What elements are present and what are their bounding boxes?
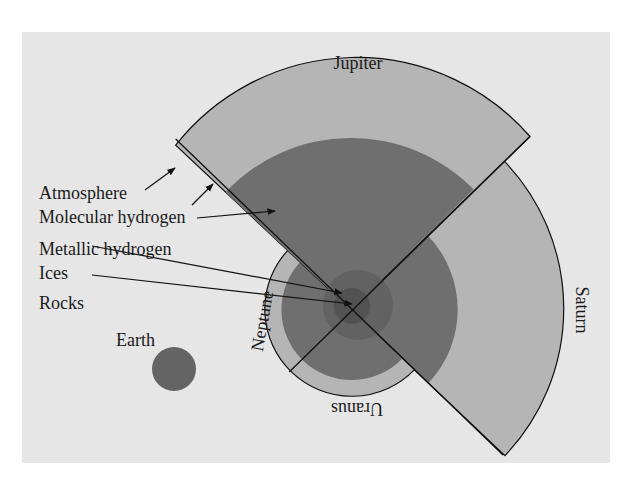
jupiter-label: Jupiter [334, 53, 383, 73]
metallic-hydrogen-label: Metallic hydrogen [39, 239, 171, 259]
uranus-label: Uranus [331, 399, 383, 419]
earth-disc [152, 347, 196, 391]
saturn-label: Saturn [572, 287, 592, 334]
rocks-core [334, 288, 370, 324]
planet-interiors-diagram: Jupiter Saturn Uranus Neptune Earth Atmo… [0, 0, 620, 484]
earth-label: Earth [116, 330, 155, 350]
rocks-label: Rocks [39, 293, 84, 313]
molecular-hydrogen-label: Molecular hydrogen [39, 207, 185, 227]
atmosphere-label: Atmosphere [39, 183, 127, 203]
ices-label: Ices [39, 263, 68, 283]
